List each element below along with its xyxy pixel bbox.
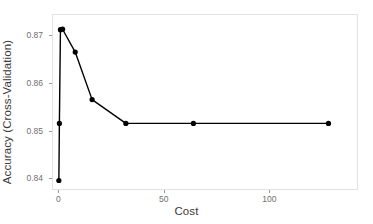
- data-point: [56, 178, 61, 183]
- y-tick-mark: [49, 131, 52, 132]
- x-tick-label: 0: [38, 194, 78, 205]
- data-point: [191, 121, 196, 126]
- data-point: [326, 121, 331, 126]
- x-tick-label: 100: [249, 194, 289, 205]
- x-tick-mark: [58, 190, 59, 193]
- x-tick-mark: [269, 190, 270, 193]
- plot-area: [0, 0, 373, 224]
- data-point: [123, 121, 128, 126]
- data-point: [57, 121, 62, 126]
- x-tick-mark: [164, 190, 165, 193]
- y-tick-mark: [49, 83, 52, 84]
- x-axis-title: Cost: [0, 205, 373, 217]
- data-point: [60, 27, 65, 32]
- data-point-group: [56, 27, 331, 183]
- x-tick-label: 50: [144, 194, 184, 205]
- y-tick-mark: [49, 178, 52, 179]
- y-axis-title: Accuracy (Cross-Validation): [0, 0, 15, 224]
- data-line: [59, 29, 329, 180]
- data-point: [90, 97, 95, 102]
- chart-container: 0.840.850.860.87 050100 Accuracy (Cross-…: [0, 0, 373, 224]
- data-point: [73, 49, 78, 54]
- y-tick-mark: [49, 35, 52, 36]
